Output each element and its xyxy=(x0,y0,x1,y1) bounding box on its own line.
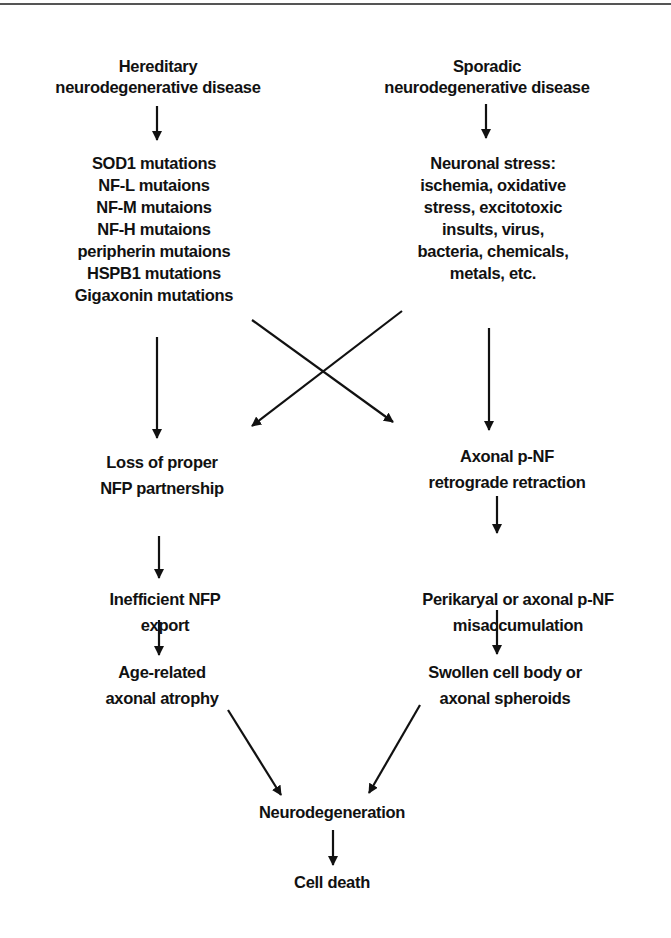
arrow-stress-to-loss xyxy=(252,311,402,426)
node-line: Neurodegeneration xyxy=(259,802,405,823)
node-line: Age-related xyxy=(105,659,218,685)
node-misaccumulation: Perikaryal or axonal p-NF misaccumulatio… xyxy=(422,586,614,638)
node-mutations-list: SOD1 mutations NF-L mutaions NF-M mutaio… xyxy=(75,152,233,306)
node-line: NF-L mutaions xyxy=(75,174,233,196)
node-line: HSPB1 mutations xyxy=(75,262,233,284)
node-line: SOD1 mutations xyxy=(75,152,233,174)
node-neurodegeneration: Neurodegeneration xyxy=(259,802,405,823)
node-line: axonal atrophy xyxy=(105,685,218,711)
node-line: Swollen cell body or xyxy=(428,659,582,685)
node-line: Perikaryal or axonal p-NF xyxy=(422,586,614,612)
node-line: Hereditary xyxy=(55,56,260,77)
node-line: Neuronal stress: xyxy=(418,152,569,174)
node-line: Cell death xyxy=(294,872,370,893)
node-line: ischemia, oxidative xyxy=(418,174,569,196)
node-line: export xyxy=(109,612,220,638)
node-cell-death: Cell death xyxy=(294,872,370,893)
node-line: bacteria, chemicals, xyxy=(418,240,569,262)
node-line: neurodegenerative disease xyxy=(55,77,260,98)
node-inefficient-export: Inefficient NFP export xyxy=(109,586,220,638)
arrow-swollen-to-neurodegeneration xyxy=(369,705,420,793)
node-line: metals, etc. xyxy=(418,262,569,284)
node-line: stress, excitotoxic xyxy=(418,196,569,218)
node-retrograde-retraction: Axonal p-NF retrograde retraction xyxy=(429,443,586,495)
node-line: Gigaxonin mutations xyxy=(75,284,233,306)
node-swollen-cell-body: Swollen cell body or axonal spheroids xyxy=(428,659,582,711)
node-line: peripherin mutaions xyxy=(75,240,233,262)
node-loss-of-partnership: Loss of proper NFP partnership xyxy=(100,449,224,501)
node-neuronal-stress: Neuronal stress: ischemia, oxidative str… xyxy=(418,152,569,284)
node-axonal-atrophy: Age-related axonal atrophy xyxy=(105,659,218,711)
arrow-atrophy-to-neurodegeneration xyxy=(228,710,281,795)
node-line: Loss of proper xyxy=(100,449,224,475)
node-line: Sporadic xyxy=(384,56,589,77)
node-line: retrograde retraction xyxy=(429,469,586,495)
node-hereditary-disease: Hereditary neurodegenerative disease xyxy=(55,56,260,98)
node-line: axonal spheroids xyxy=(428,685,582,711)
node-line: Axonal p-NF xyxy=(429,443,586,469)
node-line: Inefficient NFP xyxy=(109,586,220,612)
node-line: NFP partnership xyxy=(100,475,224,501)
node-sporadic-disease: Sporadic neurodegenerative disease xyxy=(384,56,589,98)
node-line: insults, virus, xyxy=(418,218,569,240)
node-line: NF-H mutaions xyxy=(75,218,233,240)
node-line: neurodegenerative disease xyxy=(384,77,589,98)
node-line: NF-M mutaions xyxy=(75,196,233,218)
node-line: misaccumulation xyxy=(422,612,614,638)
